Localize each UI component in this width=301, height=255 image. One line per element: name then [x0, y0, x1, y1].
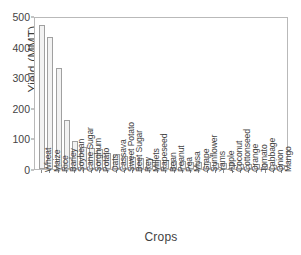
bar-slot [187, 18, 195, 169]
bar-slot [46, 18, 54, 169]
y-tick-label: 400 [0, 42, 30, 54]
x-axis-tick-labels: WheatMaizeRiceBarleySoybeanCane SugarSor… [34, 172, 288, 230]
bar-slot [104, 18, 112, 169]
y-tick-mark [31, 17, 34, 18]
bar-slot [145, 18, 153, 169]
x-tick-label: Mango [284, 146, 293, 172]
y-tick-mark [31, 47, 34, 48]
y-tick-label: 100 [0, 133, 30, 145]
bar-slot [55, 18, 63, 169]
bar-slot [63, 18, 71, 169]
bar-chart-figure: Yield (MMT) 0100200300400500 WheatMaizeR… [0, 0, 301, 255]
y-tick-mark [31, 78, 34, 79]
y-tick-mark [31, 170, 34, 171]
y-tick-label: 500 [0, 11, 30, 23]
y-tick-label: 300 [0, 72, 30, 84]
y-tick-mark [31, 139, 34, 140]
bar-slot [195, 18, 203, 169]
x-axis-title: Crops [33, 230, 289, 244]
bar-slot [38, 18, 46, 169]
y-tick-label: 0 [0, 164, 30, 176]
y-tick-label: 200 [0, 103, 30, 115]
bar-slot [220, 18, 228, 169]
y-tick-mark [31, 108, 34, 109]
